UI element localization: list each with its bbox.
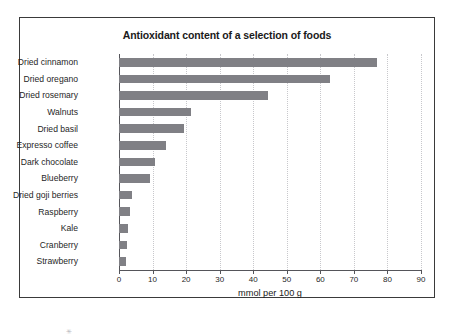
x-tick-label-80: 80 bbox=[383, 275, 392, 284]
x-tick-label-60: 60 bbox=[316, 275, 325, 284]
bar-row bbox=[119, 71, 421, 88]
category-label: Raspberry bbox=[38, 208, 78, 217]
x-tick-label-20: 20 bbox=[182, 275, 191, 284]
category-label: Expresso coffee bbox=[17, 141, 78, 150]
bar bbox=[119, 241, 127, 250]
category-label: Dark chocolate bbox=[21, 158, 78, 167]
x-tick-label-40: 40 bbox=[249, 275, 258, 284]
x-tick-70 bbox=[354, 270, 355, 274]
bar bbox=[119, 58, 377, 67]
x-tick-30 bbox=[220, 270, 221, 274]
x-axis-line bbox=[119, 270, 421, 271]
category-label: Dried oregano bbox=[24, 75, 78, 84]
x-tick-20 bbox=[186, 270, 187, 274]
bar bbox=[119, 224, 128, 233]
bar-row bbox=[119, 220, 421, 237]
stray-artifact-mark: ✳ bbox=[66, 329, 71, 334]
x-tick-80 bbox=[387, 270, 388, 274]
bar-row bbox=[119, 137, 421, 154]
category-label: Walnuts bbox=[47, 108, 78, 117]
bar bbox=[119, 207, 130, 216]
bar-row bbox=[119, 253, 421, 270]
bar-row bbox=[119, 154, 421, 171]
x-tick-50 bbox=[287, 270, 288, 274]
x-tick-0 bbox=[119, 270, 120, 274]
bar-row bbox=[119, 54, 421, 71]
bar-row bbox=[119, 120, 421, 137]
x-tick-label-70: 70 bbox=[349, 275, 358, 284]
bar bbox=[119, 75, 330, 84]
gridline-90 bbox=[421, 54, 422, 270]
x-axis-label: mmol per 100 g bbox=[119, 288, 421, 298]
chart-title: Antioxidant content of a selection of fo… bbox=[20, 29, 434, 41]
bar-row bbox=[119, 104, 421, 121]
category-label: Dried cinnamon bbox=[18, 58, 78, 67]
category-label: Kale bbox=[61, 224, 78, 233]
category-label: Cranberry bbox=[40, 241, 78, 250]
bar-row bbox=[119, 187, 421, 204]
bar bbox=[119, 141, 166, 150]
bar-row bbox=[119, 203, 421, 220]
x-tick-label-50: 50 bbox=[282, 275, 291, 284]
x-tick-label-0: 0 bbox=[117, 275, 121, 284]
x-tick-label-10: 10 bbox=[148, 275, 157, 284]
bar bbox=[119, 191, 132, 200]
bar bbox=[119, 158, 155, 167]
x-tick-label-30: 30 bbox=[215, 275, 224, 284]
x-tick-label-90: 90 bbox=[417, 275, 426, 284]
category-label: Blueberry bbox=[41, 174, 78, 183]
x-tick-90 bbox=[421, 270, 422, 274]
bar bbox=[119, 174, 150, 183]
bar bbox=[119, 124, 184, 133]
x-tick-10 bbox=[153, 270, 154, 274]
chart-figure: Antioxidant content of a selection of fo… bbox=[19, 17, 435, 298]
bar-row bbox=[119, 170, 421, 187]
bar-row bbox=[119, 87, 421, 104]
bar bbox=[119, 108, 191, 117]
category-label: Dried rosemary bbox=[19, 91, 78, 100]
category-label: Dried basil bbox=[37, 125, 78, 134]
category-label: Dried goji berries bbox=[13, 191, 78, 200]
bar bbox=[119, 91, 268, 100]
x-tick-40 bbox=[253, 270, 254, 274]
bar bbox=[119, 257, 126, 266]
bar-row bbox=[119, 237, 421, 254]
category-label: Strawberry bbox=[36, 257, 78, 266]
x-tick-60 bbox=[320, 270, 321, 274]
